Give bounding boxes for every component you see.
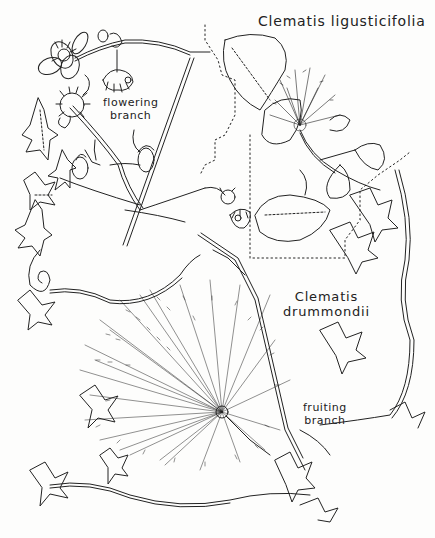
botanical-plate: Clematis ligusticifolia Clematis drummon…	[0, 0, 435, 538]
feathery-seed-head	[80, 280, 290, 470]
flowering-label-line2: branch	[103, 110, 158, 123]
fruiting-branch-label: fruiting branch	[303, 402, 347, 427]
flowering-branch-drawing	[22, 30, 210, 246]
illustration	[0, 0, 435, 538]
species-title-drummondii: Clematis drummondii	[283, 290, 370, 320]
species-title-line1: Clematis	[283, 290, 370, 305]
fruiting-label-line2: branch	[303, 415, 347, 428]
species-title-ligusticifolia: Clematis ligusticifolia	[258, 13, 426, 29]
drummondii-drawing	[15, 170, 425, 522]
flowering-label-line1: flowering	[103, 97, 158, 110]
species-title-line2: drummondii	[283, 305, 370, 320]
ligusticifolia-inset	[200, 25, 410, 258]
fruiting-label-line1: fruiting	[303, 402, 347, 415]
center-flowers	[205, 187, 250, 228]
flowering-branch-label: flowering branch	[103, 97, 158, 122]
